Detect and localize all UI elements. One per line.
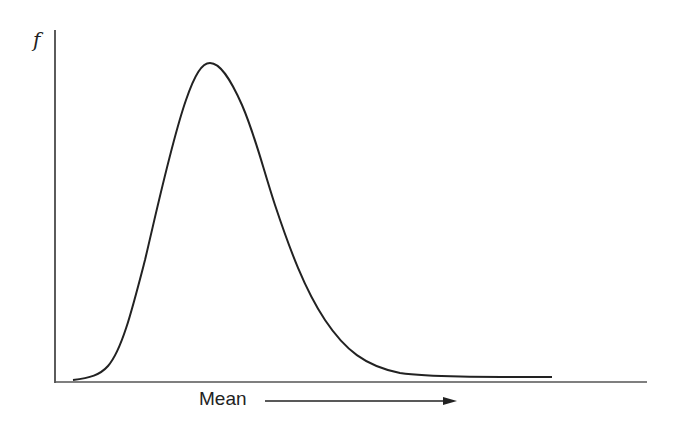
distribution-curve [73, 63, 552, 380]
x-axis-label: Mean [199, 388, 247, 410]
chart-canvas [0, 0, 675, 422]
y-axis-label: f [33, 28, 40, 52]
mean-arrow-head-icon [443, 397, 457, 405]
